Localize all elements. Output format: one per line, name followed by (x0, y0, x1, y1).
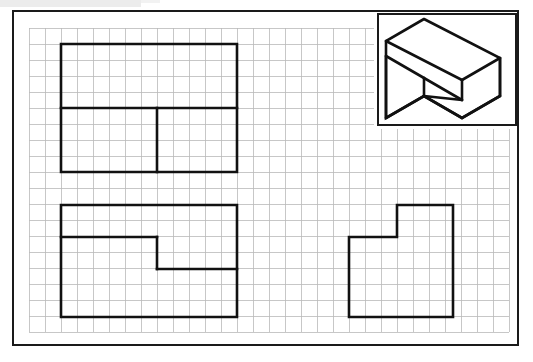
worksheet-page (0, 0, 533, 362)
drawing-sheet (0, 0, 533, 362)
top-view (61, 44, 237, 172)
